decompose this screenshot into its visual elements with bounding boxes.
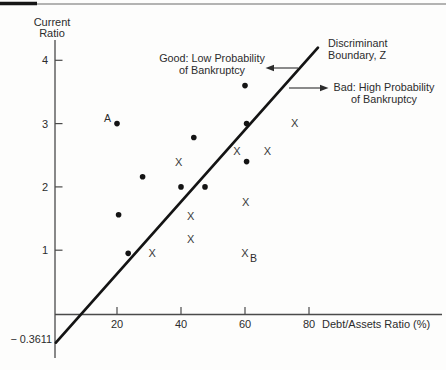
y-tick-label: 4 [42, 54, 48, 66]
bad-firm-x-marker: X [242, 196, 250, 208]
good-firm-dot-marker [114, 121, 120, 127]
good-firm-dot-marker [125, 251, 131, 257]
x-tick-label: 80 [303, 318, 315, 330]
bad-region-label-line2: of Bankruptcy [351, 93, 418, 105]
good-firm-dot-marker [116, 212, 122, 218]
good-firm-dot-marker [191, 135, 197, 141]
bad-firm-x-marker: X [264, 145, 272, 157]
bad-firm-x-marker: X [241, 247, 249, 259]
good-firm-dot-marker [244, 159, 250, 165]
boundary-label-line2: Boundary, Z [328, 49, 386, 61]
good-region-label-line2: of Bankruptcy [179, 64, 246, 76]
bad-firm-x-marker: X [233, 145, 241, 157]
bad-firm-x-marker: X [175, 156, 183, 168]
y-intercept-label: − 0.3611 [10, 333, 52, 345]
point-label-b: B [250, 252, 257, 264]
bad-region-label-line1: Bad: High Probability [334, 81, 435, 93]
good-arrow-head-icon [266, 65, 275, 71]
y-tick-label: 3 [42, 118, 48, 130]
good-firm-dot-marker [244, 121, 250, 127]
bad-arrow-head-icon [320, 85, 329, 91]
good-firm-dot-marker [242, 83, 248, 89]
chart-figure: Current Ratio 1234 20406080 XXXXXXXXX AB… [0, 0, 446, 370]
bad-firm-x-marker: X [187, 233, 195, 245]
discriminant-boundary-line [56, 48, 318, 343]
good-firm-dot-marker [202, 184, 208, 190]
x-tick-label: 20 [111, 318, 123, 330]
bad-firm-x-marker: X [187, 210, 195, 222]
good-firm-dot-marker [140, 174, 146, 180]
x-axis-ticks: 20406080 [111, 307, 315, 330]
good-firm-dot-marker [178, 184, 184, 190]
y-axis-ticks: 1234 [42, 54, 63, 256]
y-tick-label: 2 [42, 181, 48, 193]
scatter-plot-svg: Current Ratio 1234 20406080 XXXXXXXXX AB… [0, 0, 446, 370]
x-tick-label: 40 [175, 318, 187, 330]
point-label-a: A [104, 112, 111, 124]
y-tick-label: 1 [42, 244, 48, 256]
x-axis-title: Debt/Assets Ratio (%) [322, 318, 430, 330]
y-axis-title-line2: Ratio [39, 27, 65, 39]
bad-firm-x-marker: X [291, 117, 299, 129]
x-tick-label: 60 [239, 318, 251, 330]
boundary-label-line1: Discriminant [328, 37, 387, 49]
bad-firm-x-marker: X [149, 247, 157, 259]
good-region-label-line1: Good: Low Probability [159, 52, 265, 64]
